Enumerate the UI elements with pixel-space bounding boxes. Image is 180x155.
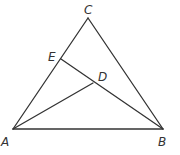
label-c: C <box>84 3 93 17</box>
segment-ad <box>13 83 93 129</box>
label-b: B <box>158 135 166 149</box>
triangle-diagram: C E D A B <box>0 0 180 155</box>
label-a: A <box>0 135 9 149</box>
label-d: D <box>98 70 107 84</box>
label-e: E <box>48 50 56 64</box>
segment-eb <box>61 59 163 129</box>
segment-ca <box>13 18 88 129</box>
